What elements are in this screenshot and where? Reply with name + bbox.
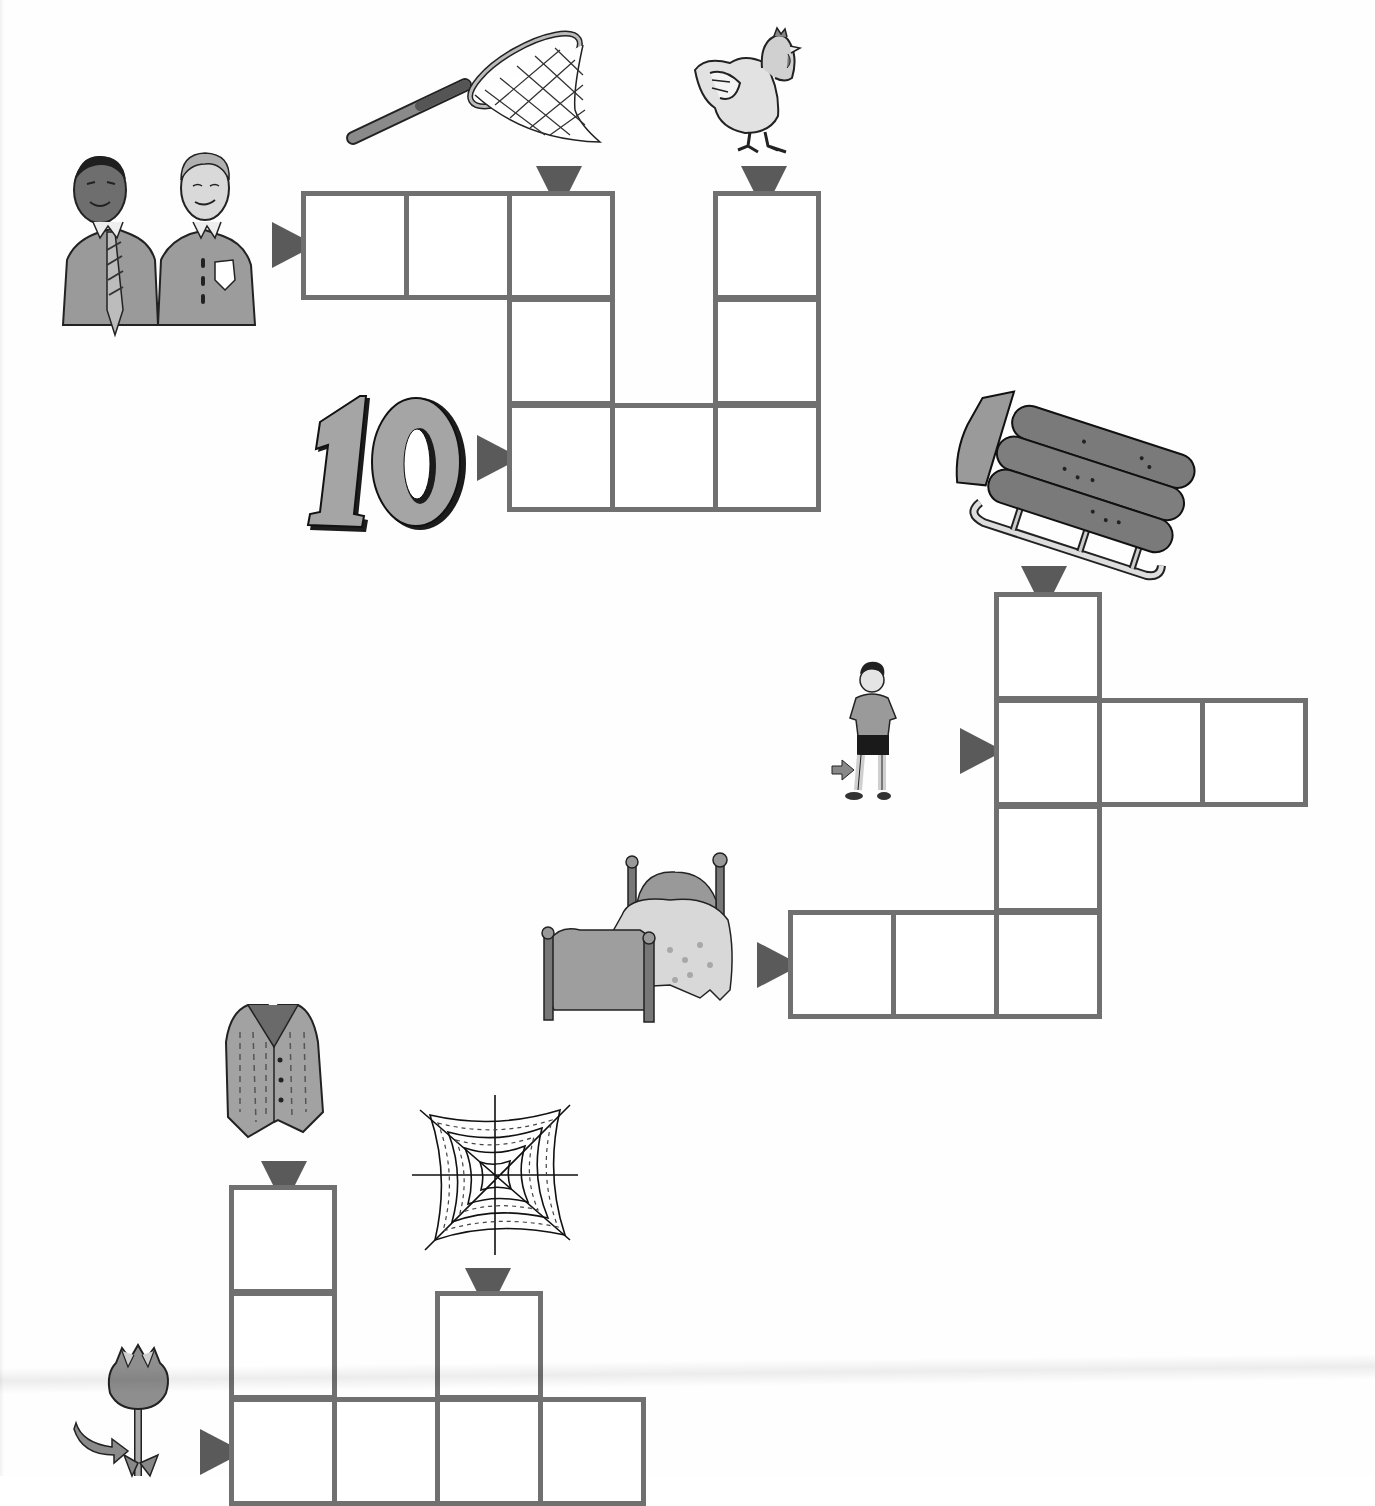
cell-letter-input[interactable]: [306, 196, 404, 295]
spider-web-icon: [410, 1090, 580, 1260]
crossword-cell[interactable]: [994, 592, 1102, 701]
sled-icon: [950, 400, 1195, 570]
vest-icon: [218, 1002, 330, 1137]
cell-letter-input[interactable]: [999, 809, 1097, 908]
cell-letter-input[interactable]: [440, 1296, 538, 1395]
cell-letter-input[interactable]: [999, 703, 1097, 802]
cell-letter-input[interactable]: [234, 1296, 332, 1395]
crossword-cell[interactable]: [994, 804, 1102, 913]
cell-letter-input[interactable]: [896, 915, 994, 1014]
cell-letter-input[interactable]: [615, 408, 713, 507]
cell-letter-input[interactable]: [409, 196, 507, 295]
cell-letter-input[interactable]: [1205, 703, 1303, 802]
crossword-cell[interactable]: [1097, 698, 1205, 807]
cell-letter-input[interactable]: [234, 1190, 332, 1289]
butterfly-net-icon: [345, 30, 615, 155]
crossword-cell[interactable]: [1200, 698, 1308, 807]
cell-letter-input[interactable]: [718, 302, 816, 401]
crossword-cell[interactable]: [404, 191, 512, 300]
page-edge-shadow: [0, 0, 4, 1476]
crossword-cell[interactable]: [435, 1397, 543, 1506]
cell-letter-input[interactable]: [718, 408, 816, 507]
crossword-cell[interactable]: [229, 1397, 337, 1506]
crossword-cell[interactable]: [713, 297, 821, 406]
crossword-cell[interactable]: [994, 698, 1102, 807]
crossword-cell[interactable]: [891, 910, 999, 1019]
cell-letter-input[interactable]: [512, 408, 610, 507]
tulip-stem-icon: [72, 1343, 182, 1476]
cell-letter-input[interactable]: [512, 302, 610, 401]
crossword-cell[interactable]: [713, 191, 821, 300]
cell-letter-input[interactable]: [999, 915, 1097, 1014]
bed-icon: [540, 850, 745, 1025]
crossword-cell[interactable]: [538, 1397, 646, 1506]
cell-letter-input[interactable]: [440, 1402, 538, 1501]
crossword-cell[interactable]: [507, 191, 615, 300]
crossword-cell[interactable]: [507, 297, 615, 406]
scan-artifact: [0, 1354, 1375, 1394]
cell-letter-input[interactable]: [1102, 703, 1200, 802]
crossword-cell[interactable]: [435, 1291, 543, 1400]
number-ten-icon: 10: [308, 390, 470, 535]
cell-letter-input[interactable]: [337, 1402, 435, 1501]
cell-letter-input[interactable]: [512, 196, 610, 295]
crossword-cell[interactable]: [788, 910, 896, 1019]
two-men-icon: [55, 150, 260, 340]
crossword-cell[interactable]: [229, 1291, 337, 1400]
crossword-cell[interactable]: [713, 403, 821, 512]
crossword-cell[interactable]: [610, 403, 718, 512]
cell-letter-input[interactable]: [999, 597, 1097, 696]
crossword-cell[interactable]: [332, 1397, 440, 1506]
crossword-cell[interactable]: [301, 191, 409, 300]
cell-letter-input[interactable]: [234, 1402, 332, 1501]
crossword-cell[interactable]: [229, 1185, 337, 1294]
hen-icon: [690, 28, 815, 158]
cell-letter-input[interactable]: [793, 915, 891, 1014]
crossword-cell[interactable]: [994, 910, 1102, 1019]
boy-legs-icon: [830, 658, 920, 808]
cell-letter-input[interactable]: [543, 1402, 641, 1501]
crossword-cell[interactable]: [507, 403, 615, 512]
cell-letter-input[interactable]: [718, 196, 816, 295]
